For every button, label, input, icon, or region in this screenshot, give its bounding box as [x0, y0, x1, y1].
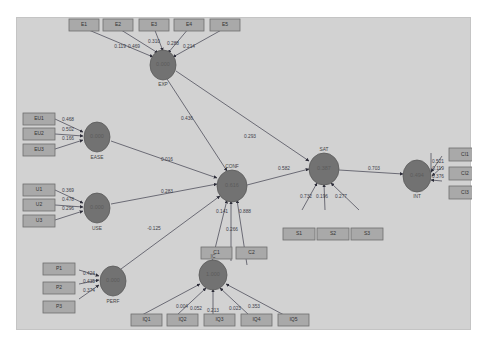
latent-name: EXP — [158, 82, 168, 87]
latent-name: CONF — [225, 164, 239, 169]
indicator-label: U1 — [36, 186, 43, 192]
indicator-label: C2 — [248, 249, 255, 255]
indicator-P1[interactable]: P1 — [43, 263, 75, 275]
weight-U3: 0.296 — [62, 206, 74, 211]
indicator-E4[interactable]: E4 — [174, 19, 204, 31]
weight-E5: 0.214 — [183, 44, 195, 49]
indicator-label: CI1 — [461, 151, 469, 157]
latent-value: 0.616 — [225, 182, 239, 188]
indicator-IQ3[interactable]: IQ3 — [204, 314, 235, 326]
weight-C1: 0.141 — [216, 209, 228, 214]
indicator-C2[interactable]: C2 — [236, 247, 267, 259]
path-EASE-CONF: 0.016 — [161, 157, 173, 162]
indicator-S1[interactable]: S1 — [283, 228, 315, 240]
indicator-EU3[interactable]: EU3 — [23, 144, 55, 156]
indicator-label: E3 — [151, 21, 157, 27]
indicator-U2[interactable]: U2 — [23, 199, 55, 211]
indicator-P3[interactable]: P3 — [43, 301, 75, 313]
latent-name: IC — [211, 254, 216, 259]
weight-U2: 0.478 — [62, 197, 74, 202]
indicator-label: P3 — [56, 303, 62, 309]
weight-CI1: 0.521 — [432, 159, 444, 164]
weight-P3: 0.374 — [83, 288, 95, 293]
indicator-CI3[interactable]: CI3 — [449, 186, 472, 199]
weight-IQ2: 0.052 — [190, 306, 202, 311]
weight-IQ4: 0.023 — [229, 306, 241, 311]
weight-S3: 0.277 — [335, 194, 347, 199]
latent-EXP[interactable]: 0.000 EXP — [150, 50, 176, 87]
indicator-CI1[interactable]: CI1 — [449, 148, 472, 161]
latent-value: 0.494 — [410, 172, 424, 178]
path-model-svg: 0.119 0.469 0.310 0.288 0.214 0.468 0.50… — [17, 18, 472, 331]
indicator-label: S3 — [364, 230, 370, 236]
path-EXP-CONF: 0.436 — [181, 116, 193, 121]
indicator-label: S1 — [296, 230, 302, 236]
indicator-U1[interactable]: U1 — [23, 184, 55, 196]
weight-IQ3: 0.213 — [207, 308, 219, 313]
indicator-E3[interactable]: E3 — [139, 19, 169, 31]
latent-name: EASE — [91, 155, 104, 160]
diagram-canvas: 0.119 0.469 0.310 0.288 0.214 0.468 0.50… — [16, 17, 471, 330]
indicator-IQ5[interactable]: IQ5 — [278, 314, 309, 326]
indicator-CI2[interactable]: CI2 — [449, 167, 472, 180]
weight-EU1: 0.468 — [62, 117, 74, 122]
latent-value: 0.000 — [106, 277, 120, 283]
indicator-S2[interactable]: S2 — [317, 228, 349, 240]
indicator-E1[interactable]: E1 — [69, 19, 99, 31]
indicator-label: E2 — [115, 21, 121, 27]
weight-IQ5: 0.353 — [248, 304, 260, 309]
latent-value: 1.000 — [206, 271, 220, 277]
path-SAT-INT: 0.703 — [368, 166, 380, 171]
path-CONF-SAT: 0.582 — [278, 166, 290, 171]
weight-IQ1: 0.004 — [176, 304, 188, 309]
latent-USE[interactable]: 0.000 USE — [84, 193, 110, 231]
indicator-label: CI2 — [461, 170, 469, 176]
weight-P2: 0.435 — [83, 279, 95, 284]
indicator-label: EU1 — [34, 115, 44, 121]
latent-SAT[interactable]: 0.387 SAT — [309, 147, 339, 185]
indicator-E2[interactable]: E2 — [103, 19, 133, 31]
latent-name: SAT — [320, 147, 329, 152]
indicator-label: E5 — [222, 21, 228, 27]
indicator-label: IQ4 — [252, 316, 260, 322]
path-EXP-SAT: 0.293 — [244, 134, 256, 139]
weight-U1: 0.369 — [62, 188, 74, 193]
latent-value: 0.000 — [90, 204, 104, 210]
weight-E1: 0.119 — [114, 44, 126, 49]
weight-CI3: 0.376 — [432, 174, 444, 179]
indicator-EU2[interactable]: EU2 — [23, 128, 55, 140]
indicator-label: U2 — [36, 201, 43, 207]
weight-C2: 0.888 — [239, 209, 251, 214]
indicator-U3[interactable]: U3 — [23, 215, 55, 227]
indicator-S3[interactable]: S3 — [351, 228, 383, 240]
weight-EU3: 0.166 — [62, 136, 74, 141]
weight-E3: 0.310 — [148, 39, 160, 44]
indicator-IQ2[interactable]: IQ2 — [167, 314, 198, 326]
indicator-label: U3 — [36, 217, 43, 223]
latent-EASE[interactable]: 0.000 EASE — [84, 122, 110, 160]
indicator-P2[interactable]: P2 — [43, 282, 75, 294]
indicator-EU1[interactable]: EU1 — [23, 113, 55, 125]
latent-name: USE — [92, 226, 102, 231]
latent-PERF[interactable]: 0.000 PERF — [100, 266, 126, 304]
latent-value: 0.387 — [317, 165, 331, 171]
weight-P1: 0.424 — [83, 271, 95, 276]
indicator-E5[interactable]: E5 — [210, 19, 240, 31]
latent-INT[interactable]: 0.494 INT — [403, 160, 431, 199]
indicator-label: EU3 — [34, 146, 44, 152]
indicator-label: EU2 — [34, 130, 44, 136]
latent-CONF[interactable]: 0.616 CONF — [217, 164, 247, 202]
indicator-label: P1 — [56, 265, 62, 271]
weight-E2: 0.469 — [128, 44, 140, 49]
indicator-C1[interactable]: C1 — [201, 247, 232, 259]
indicator-IQ1[interactable]: IQ1 — [131, 314, 162, 326]
indicator-label: P2 — [56, 284, 62, 290]
indicator-IQ4[interactable]: IQ4 — [241, 314, 272, 326]
indicator-label: IQ2 — [178, 316, 186, 322]
latent-name: PERF — [107, 299, 120, 304]
indicator-label: IQ3 — [215, 316, 223, 322]
weight-S1: 0.732 — [300, 194, 312, 199]
indicator-label: E4 — [186, 21, 192, 27]
latent-value: 0.000 — [156, 61, 170, 67]
latent-variables: 0.000 EXP 0.000 EASE 0.000 USE 0.000 PER… — [84, 50, 431, 304]
